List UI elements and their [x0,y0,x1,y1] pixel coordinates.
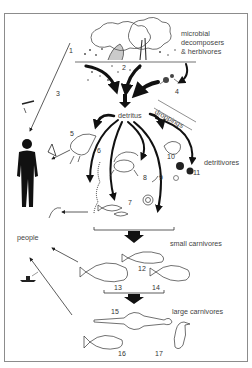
bivalves-icon [174,162,194,181]
fishing-boat-icon [20,272,38,282]
node-number-16: 16 [118,350,126,357]
label-microbial-line3: & herbivores [181,48,221,56]
trevally-icon [84,335,123,349]
arrows-to-detritus [86,64,187,108]
crab-in-litter-icon [160,74,178,84]
snapper-icon [122,252,164,264]
node-number-15: 15 [111,308,119,315]
node-number-9: 9 [159,174,163,181]
label-large-carnivores: large carnivores [172,308,223,316]
label-detritus: detritus [118,112,142,120]
label-people: people [17,234,39,242]
node-number-14: 14 [152,284,160,291]
label-microbial-line2: decomposers [181,39,224,47]
small-fish-icon [98,205,128,216]
node-number-12: 12 [138,265,146,272]
node-number-6: 6 [97,147,101,154]
fishing-rod-icon [49,208,61,218]
node-number-11: 11 [193,169,200,176]
net-icon [48,144,56,156]
arrows-to-detritivores [90,114,192,210]
person-silhouette-icon [17,139,38,207]
node-number-7: 7 [128,199,132,206]
node-number-1: 1 [69,47,73,54]
node-number-17: 17 [155,350,163,357]
arrow-to-small-carnivores [124,231,144,243]
label-microbial-line1: microbial [181,30,210,38]
crab-icon [110,152,138,176]
spotted-fish-icon [150,265,190,281]
node-number-2: 2 [122,64,126,71]
bream-icon [80,263,128,282]
bracket-detritivores [94,227,174,230]
mangrove-trees-icon [75,17,196,62]
node-number-5: 5 [70,130,74,137]
arrows-to-people [30,43,88,315]
sawfish-icon [94,312,172,329]
node-number-8: 8 [143,174,147,181]
node-number-4: 4 [175,88,179,95]
heron-icon [174,322,190,349]
arrow-to-large-carnivores [124,294,144,304]
node-number-13: 13 [114,284,122,291]
axe-icon [22,101,34,113]
node-number-10: 10 [167,153,175,160]
node-number-3: 3 [56,90,60,97]
label-detritivores: detritivores [204,159,239,167]
label-small-carnivores: small carnivores [170,240,222,248]
